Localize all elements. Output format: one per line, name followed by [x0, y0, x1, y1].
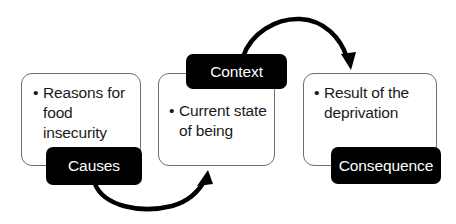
connector-context-to-consequence-path [243, 19, 347, 58]
node-causes-bullet: • Reasons for food insecurity [33, 83, 137, 145]
connector-causes-to-context-arrowhead [197, 170, 213, 186]
bullet-marker-icon: • [314, 83, 324, 103]
node-consequence-bullet-text: Result of the deprivation [324, 83, 434, 123]
node-context-bullet: • Current state of being [169, 101, 269, 163]
bullet-marker-icon: • [169, 101, 179, 121]
node-consequence-tag[interactable]: Consequence [331, 147, 441, 184]
diagram-canvas: • Reasons for food insecurity Causes • C… [0, 0, 456, 224]
node-consequence-tag-label: Consequence [339, 157, 434, 175]
node-consequence-bullet: • Result of the deprivation [314, 83, 434, 125]
node-context-tag[interactable]: Context [186, 54, 287, 89]
node-causes-tag[interactable]: Causes [46, 147, 142, 185]
node-context-bullet-text: Current state of being [179, 101, 269, 141]
connector-context-to-consequence-arrowhead [341, 52, 356, 70]
node-causes-bullet-text: Reasons for food insecurity [43, 83, 137, 143]
node-causes-tag-label: Causes [68, 157, 120, 175]
bullet-marker-icon: • [33, 83, 43, 103]
node-context-tag-label: Context [210, 63, 263, 81]
